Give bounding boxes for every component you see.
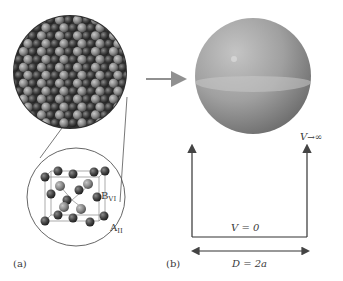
nanocrystal-cluster — [11, 15, 132, 129]
a-site-label: AII — [110, 222, 123, 235]
panel-b-label: (b) — [166, 258, 180, 269]
potential-inside-label: V = 0 — [231, 222, 259, 233]
panel-a-label: (a) — [13, 258, 27, 269]
potential-outside-label: V→∞ — [300, 131, 322, 142]
sphere-model — [195, 18, 311, 134]
zoom-line-left — [40, 128, 62, 158]
diameter-label: D = 2a — [232, 258, 267, 269]
b-site-label: BVI — [101, 190, 116, 203]
figure-canvas — [0, 0, 343, 281]
